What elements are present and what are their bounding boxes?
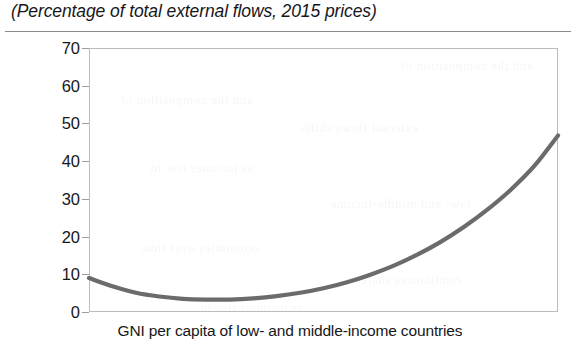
y-tick-label: 50 <box>8 115 80 132</box>
y-tick-mark <box>82 86 89 87</box>
y-tick-mark <box>82 48 89 49</box>
y-tick-label: 0 <box>8 304 80 321</box>
y-tick-label: 60 <box>8 78 80 95</box>
y-tick-label: 70 <box>8 40 80 57</box>
y-tick-label: 40 <box>8 153 80 170</box>
y-tick-label: 20 <box>8 229 80 246</box>
y-tick-mark <box>82 274 89 275</box>
y-tick-mark <box>82 237 89 238</box>
y-tick-mark <box>82 161 89 162</box>
plot-canvas <box>89 48 558 312</box>
y-tick-mark <box>82 312 89 313</box>
y-tick-label: 10 <box>8 266 80 283</box>
figure: (Percentage of total external flows, 201… <box>0 0 580 351</box>
y-tick-mark <box>82 123 89 124</box>
y-axis-labels: 70 60 50 40 30 20 10 0 <box>0 0 80 351</box>
data-series-line <box>89 136 558 300</box>
y-tick-mark <box>82 199 89 200</box>
x-axis-caption: GNI per capita of low- and middle-income… <box>0 322 580 340</box>
title-divider <box>5 31 571 32</box>
y-tick-label: 30 <box>8 191 80 208</box>
